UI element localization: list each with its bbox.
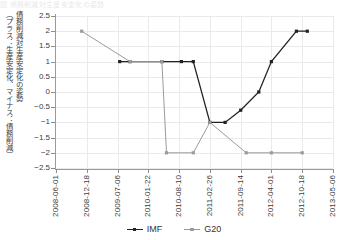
data-point-g20 [192, 151, 195, 154]
x-tick-mark [179, 169, 180, 173]
x-tick-mark [118, 169, 119, 173]
y-tick-label: −2 [20, 149, 50, 157]
chart-figure: 図 債務削減対生産安定化の姿勢 債務削減対生産安定化の姿勢 （プラス：生産安定化… [0, 0, 348, 240]
y-tick-label: −1.5 [20, 134, 50, 142]
data-point-imf [118, 60, 121, 63]
series-line-g20 [82, 31, 303, 153]
x-tick-mark [241, 169, 242, 173]
data-point-imf [270, 60, 273, 63]
x-tick-label: 2010-08-10 [175, 175, 183, 217]
y-tick-label: 2 [20, 27, 50, 35]
data-point-g20 [208, 121, 211, 124]
legend-swatch-imf [127, 229, 143, 230]
x-tick-label: 2008-12-18 [83, 175, 91, 217]
data-point-g20 [165, 151, 168, 154]
x-tick-mark [210, 169, 211, 173]
y-tick-mark [51, 77, 55, 78]
y-tick-mark [51, 92, 55, 93]
data-point-g20 [160, 60, 163, 63]
legend-swatch-g20 [184, 229, 200, 230]
x-tick-mark [148, 169, 149, 173]
y-tick-label: −1 [20, 118, 50, 126]
x-tick-mark [333, 169, 334, 173]
y-tick-mark [51, 31, 55, 32]
data-point-imf [306, 30, 309, 33]
y-tick-mark [51, 138, 55, 139]
series-line-imf [120, 31, 308, 122]
data-point-imf [192, 60, 195, 63]
data-point-imf [257, 90, 260, 93]
y-tick-mark [51, 62, 55, 63]
y-tick-label: 1 [20, 58, 50, 66]
x-tick-mark [271, 169, 272, 173]
x-tick-label: 2011-09-14 [237, 175, 245, 216]
data-point-g20 [80, 30, 83, 33]
data-point-imf [239, 109, 242, 112]
data-point-imf [295, 30, 298, 33]
data-point-g20 [301, 151, 304, 154]
legend-item-g20: G20 [184, 224, 221, 234]
data-point-imf [180, 60, 183, 63]
x-tick-mark [56, 169, 57, 173]
y-tick-mark [51, 122, 55, 123]
y-tick-label: 0 [20, 88, 50, 96]
y-tick-label: 0.5 [20, 73, 50, 81]
x-tick-mark [302, 169, 303, 173]
y-tick-mark [51, 107, 55, 108]
x-tick-label: 2012-10-18 [298, 175, 306, 217]
x-tick-label: 2011-02-26 [206, 175, 214, 216]
y-tick-label: −2.5 [20, 164, 50, 172]
y-tick-mark [51, 168, 55, 169]
legend: IMF G20 [0, 222, 348, 236]
x-tick-mark [87, 169, 88, 173]
data-point-g20 [128, 60, 131, 63]
x-tick-label: 2008-06-01 [52, 175, 60, 217]
y-tick-label: 1.5 [20, 42, 50, 50]
x-tick-label: 2012-04-01 [267, 175, 275, 217]
x-tick-label: 2010-01-22 [144, 175, 152, 217]
legend-label-g20: G20 [204, 224, 221, 234]
x-tick-label: 2009-07-06 [114, 175, 122, 217]
y-tick-label: 2.5 [20, 12, 50, 20]
y-tick-mark [51, 16, 55, 17]
legend-item-imf: IMF [127, 224, 163, 234]
data-point-g20 [270, 151, 273, 154]
y-tick-mark [51, 46, 55, 47]
x-tick-label: 2013-05-06 [329, 175, 337, 217]
legend-label-imf: IMF [147, 224, 163, 234]
data-point-g20 [245, 151, 248, 154]
data-point-imf [224, 121, 227, 124]
y-tick-label: −0.5 [20, 103, 50, 111]
y-tick-mark [51, 153, 55, 154]
